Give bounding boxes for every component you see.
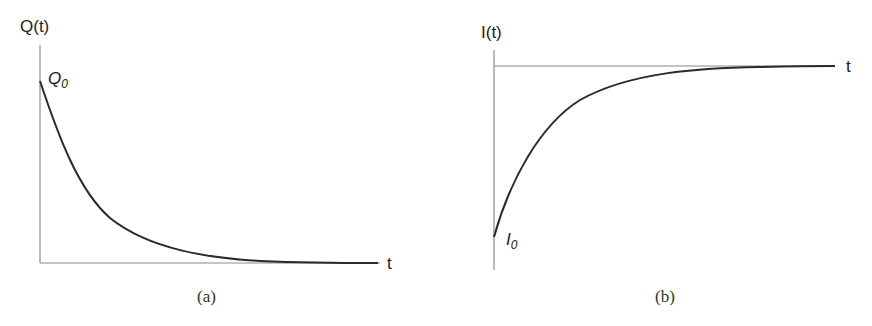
x-axis-label-b: t <box>846 57 851 76</box>
caption-b: (b) <box>655 287 675 306</box>
y-axis-label-a: Q(t) <box>20 17 49 36</box>
panel-a: Q(t) t Q0 (a) <box>20 17 392 306</box>
initial-value-label-b: I0 <box>506 230 518 252</box>
panel-b: I(t) t I0 (b) <box>481 23 851 306</box>
figure: Q(t) t Q0 (a) I(t) t I0 (b) <box>0 0 872 326</box>
caption-a: (a) <box>197 287 216 306</box>
rise-curve-b <box>494 66 835 237</box>
initial-value-label-a: Q0 <box>48 69 68 91</box>
x-axis-label-a: t <box>387 254 392 273</box>
y-axis-label-b: I(t) <box>481 23 502 42</box>
decay-curve-a <box>40 81 378 263</box>
